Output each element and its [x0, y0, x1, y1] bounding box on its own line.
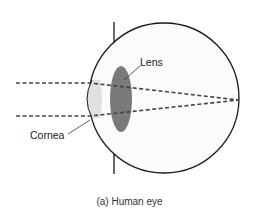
figure-caption: (a) Human eye — [0, 196, 259, 207]
human-eye-figure: Lens Cornea (a) Human eye — [0, 0, 259, 217]
cornea-label: Cornea — [30, 129, 64, 141]
cornea-leader-line — [68, 120, 90, 134]
lens-label: Lens — [140, 56, 163, 68]
eye-diagram — [0, 0, 259, 217]
